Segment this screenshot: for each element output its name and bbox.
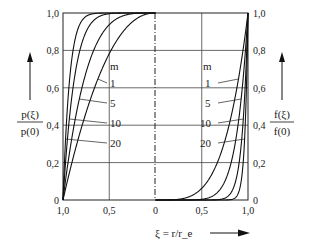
y-tick-label-right: 0,4 — [253, 120, 266, 131]
up-arrow-icon — [27, 52, 33, 62]
left-legend-label: 5 — [110, 97, 116, 109]
y-tick-label-left: 0,2 — [47, 158, 60, 169]
right-ylabel-numerator: f(ξ) — [274, 108, 290, 121]
leader-line — [218, 79, 238, 83]
y-tick-label-left: 0,4 — [47, 120, 60, 131]
x-tick-label: 1,0 — [57, 205, 70, 216]
right-y-axis-label: f(ξ) f(0) — [270, 52, 294, 138]
left-legend-label: 1 — [110, 77, 116, 89]
right-legend-label: 5 — [205, 97, 211, 109]
chart: 1,00,500,51,0000,20,20,40,40,60,60,80,81… — [0, 0, 309, 247]
x-tick-label: 0 — [153, 205, 158, 216]
x-axis-label: ξ = r/r_e — [155, 227, 250, 240]
right-ylabel-denominator: f(0) — [274, 125, 291, 138]
x-axis-label-text: ξ = r/r_e — [155, 227, 192, 240]
left-legend-label: 10 — [110, 117, 122, 129]
leader-line — [218, 99, 241, 103]
left-ylabel-numerator: p(ξ) — [21, 108, 39, 121]
left-ylabel-denominator: p(0) — [21, 125, 40, 138]
leader-line — [218, 139, 245, 143]
leader-line — [98, 79, 107, 83]
right-legend-title: m — [203, 60, 212, 72]
y-tick-label-left: 0,6 — [47, 83, 60, 94]
left-legend-title: m — [110, 60, 119, 72]
y-tick-label-left: 0,8 — [47, 45, 60, 56]
up-arrow-icon — [279, 52, 285, 62]
y-tick-label-left: 1,0 — [47, 8, 60, 19]
right-legend-label: 20 — [200, 137, 212, 149]
left-y-axis-label: p(ξ) p(0) — [17, 52, 43, 138]
right-legend-label: 1 — [205, 77, 211, 89]
x-tick-label: 0,5 — [196, 205, 209, 216]
y-tick-label-left: 0 — [54, 195, 59, 206]
right-arrow-icon — [238, 230, 250, 237]
y-tick-label-right: 1,0 — [253, 8, 266, 19]
y-tick-label-right: 0,2 — [253, 158, 266, 169]
x-tick-label: 1,0 — [242, 205, 255, 216]
right-legend-label: 10 — [200, 117, 212, 129]
x-tick-label: 0,5 — [103, 205, 116, 216]
left-legend-label: 20 — [110, 137, 122, 149]
leader-line — [79, 99, 107, 103]
y-tick-label-right: 0 — [253, 195, 258, 206]
y-tick-label-right: 0,8 — [253, 45, 266, 56]
y-tick-label-right: 0,6 — [253, 83, 266, 94]
